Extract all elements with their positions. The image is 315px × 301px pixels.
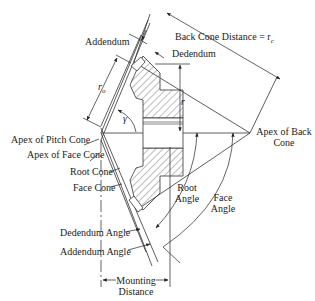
face-cone-label: Face Cone [73, 182, 116, 193]
addendum-angle-label: Addendum Angle [60, 246, 131, 257]
apex-of-back-cone-label: Apex of BackCone [253, 126, 315, 148]
back-cone-distance-label: Back Cone Distance = rc [175, 31, 274, 47]
dedendum-label: Dedendum [172, 48, 216, 59]
dedendum-angle-label: Dedendum Angle [60, 227, 130, 238]
addendum-label: Addendum [85, 36, 129, 47]
root-angle-label: RootAngle [172, 182, 202, 204]
root-cone-label: Root Cone [70, 166, 113, 177]
apex-of-face-cone-label: Apex of Face Cone [27, 149, 104, 160]
apex-of-pitch-cone-label: Apex of Pitch Cone [11, 134, 90, 145]
r-o-label: ro [98, 81, 105, 97]
r-label: r [181, 96, 185, 107]
face-angle-label: FaceAngle [208, 192, 238, 214]
gamma-label: γ [123, 113, 127, 124]
mounting-distance-label: MountingDistance [116, 275, 156, 297]
